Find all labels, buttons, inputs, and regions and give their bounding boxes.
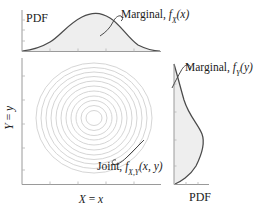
- marginal-y-sub: Y: [236, 69, 240, 78]
- y-axis-val: y: [3, 106, 15, 111]
- x-axis-label: X = x: [0, 194, 182, 206]
- marginal-x-sub: X: [172, 16, 177, 25]
- joint-sub: X,Y: [128, 168, 139, 177]
- joint-label: Joint, fX,Y(x, y): [97, 161, 163, 173]
- pdf-label-right: PDF: [189, 191, 211, 203]
- y-axis-label: Y = y: [4, 88, 16, 148]
- marginal-x-arg: (x): [177, 8, 190, 20]
- joint-prefix: Joint,: [97, 160, 125, 172]
- right-marginal-panel: [172, 62, 210, 186]
- marginal-y-label: Marginal, fY(y): [185, 62, 253, 74]
- marginal-y-arg: (y): [240, 61, 253, 73]
- x-axis-var: X: [79, 193, 86, 205]
- right-marginal-plot: [172, 62, 210, 186]
- x-axis-val: x: [98, 193, 103, 205]
- y-axis-var: Y: [3, 123, 15, 129]
- marginal-x-label: Marginal, fX(x): [121, 9, 189, 21]
- contour-ring: [41, 68, 147, 169]
- marginal-y-curve-fill: [174, 64, 203, 184]
- contour-ring: [86, 111, 102, 126]
- contour-ring: [81, 106, 107, 131]
- contour-ring: [36, 63, 152, 173]
- contour-ring: [71, 96, 117, 140]
- y-axis-eq: =: [3, 111, 15, 123]
- statistics-figure: PDF PDF Marginal, fX(x) Marginal, fY(y) …: [0, 0, 261, 215]
- contour-rings: [36, 63, 152, 173]
- pdf-label-top: PDF: [26, 12, 48, 24]
- contour-ring: [56, 81, 132, 155]
- marginal-y-prefix: Marginal,: [185, 61, 233, 73]
- contour-ring: [51, 77, 137, 160]
- contour-ring: [66, 91, 122, 145]
- joint-arg: (x, y): [139, 160, 163, 172]
- marginal-x-prefix: Marginal,: [121, 8, 169, 20]
- x-axis-eq: =: [86, 193, 98, 205]
